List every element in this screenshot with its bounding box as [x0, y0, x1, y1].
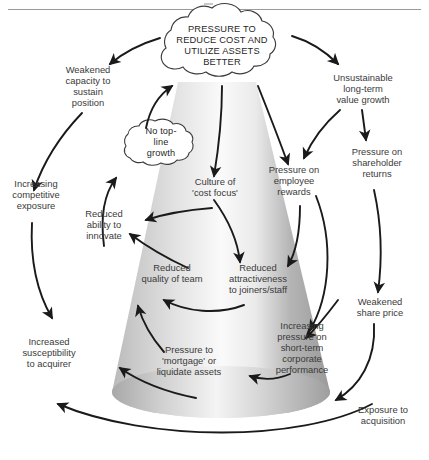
arrow-share-price-to-exposure: [336, 324, 374, 400]
node-reduced-ability-innovate: Reduced ability to innovate: [72, 208, 136, 241]
arrow-rewards-to-short-term: [310, 196, 327, 330]
arrow-competitive-to-susceptibility: [32, 223, 52, 318]
node-exposure-acquisition: Exposure to acquisition: [346, 404, 420, 426]
arrow-shareholder-to-share-price: [374, 190, 381, 292]
diagram-canvas: PRESSURE TO REDUCE COST AND UTILIZE ASSE…: [0, 0, 429, 460]
node-unsustainable-growth: Unsustainable long-term value growth: [320, 72, 406, 105]
node-reduced-quality-team: Reduced quality of team: [128, 262, 216, 284]
arrow-cloud-to-weakened-capacity: [110, 38, 160, 64]
node-pressure-shareholder: Pressure on shareholder returns: [338, 146, 416, 179]
node-pressure-mortgage-assets: Pressure to 'mortgage' or liquidate asse…: [140, 344, 238, 377]
node-culture-cost-focus: Culture of 'cost focus': [182, 176, 248, 198]
arrow-cloud-to-unsustainable-growth: [292, 36, 338, 64]
node-increasing-competitive: Increasing competitive exposure: [0, 178, 72, 211]
arrow-growth-to-employee-rewards: [304, 110, 340, 158]
arrow-growth-to-shareholder: [362, 110, 366, 140]
node-weakened-share-price: Weakened share price: [344, 296, 416, 318]
central-cloud-label: PRESSURE TO REDUCE COST AND UTILIZE ASSE…: [164, 24, 280, 69]
node-reduced-attractiveness: Reduced attractiveness to joiners/staff: [212, 262, 304, 295]
node-pressure-employee-rewards: Pressure on employee rewards: [258, 164, 330, 197]
secondary-cloud-label: No top- line growth: [124, 126, 198, 159]
node-increasing-short-term: Increasing pressure on short-term corpor…: [264, 320, 340, 375]
node-increased-susceptibility: Increased susceptibility to acquirer: [4, 336, 94, 369]
node-weakened-capacity: Weakened capacity to sustain position: [50, 64, 126, 108]
